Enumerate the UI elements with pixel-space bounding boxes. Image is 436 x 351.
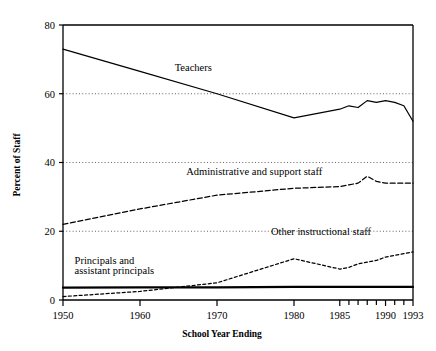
y-tick-label-20: 20 [45,226,56,237]
x-tick-label-1990: 1990 [375,310,396,321]
percent-of-staff-line-chart: 020406080 1950196019701980198519901993 T… [0,0,436,351]
x-tick-label-1950: 1950 [53,310,74,321]
y-tick-label-0: 0 [50,295,55,306]
series-label-principals-line2: assistant principals [75,265,155,276]
x-tick-label-1970: 1970 [207,310,228,321]
x-tick-label-1980: 1980 [284,310,305,321]
x-tick-label-1993: 1993 [403,310,424,321]
y-tick-label-40: 40 [45,157,56,168]
y-axis-title: Percent of Staff [12,133,22,197]
x-axis-title: School Year Ending [182,329,262,339]
chart-container: 020406080 1950196019701980198519901993 T… [0,0,436,351]
series-label-1: Administrative and support staff [186,166,322,177]
y-tick-label-80: 80 [45,20,56,31]
series-line-3 [63,287,413,288]
y-tick-label-60: 60 [45,89,56,100]
x-tick-label-1960: 1960 [130,310,151,321]
series-label-2: Other instructional staff [271,226,372,237]
series-label-0: Teachers [175,62,212,73]
x-tick-label-1985: 1985 [329,310,350,321]
